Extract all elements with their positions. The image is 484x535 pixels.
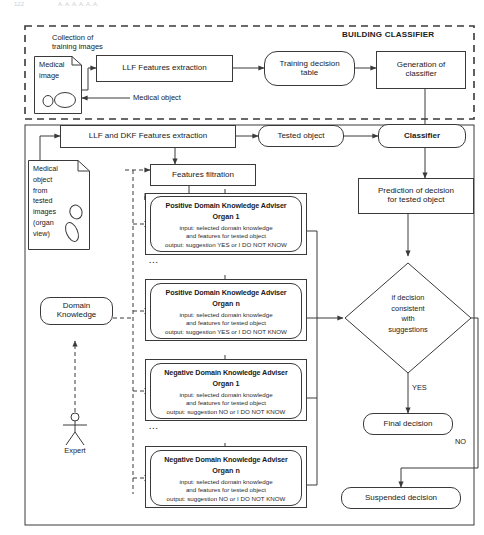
medical-object-callout-label: Medical object [133,93,181,102]
adviser-positive-organ-1: Positive Domain Knowledge Adviser Organ … [150,196,302,252]
llf-features-extraction-node: LLF Features extraction [96,55,233,82]
page-header-left: 122 [14,1,24,7]
page-header-right: A. A. A. A. A. A. [58,1,99,7]
adviser-input-line1: input: selected domain knowledge [179,478,272,485]
expert-actor [57,412,93,450]
training-decision-table-label: Training decision table [279,60,339,78]
features-filtration-label: Features filtration [172,171,234,180]
llf-dkf-features-extraction-node: LLF and DKF Features extraction [60,125,236,148]
expert-stick-figure-icon [57,412,93,446]
adviser-input-line1: input: selected domain knowledge [179,391,272,398]
generation-of-classifier-label: Generation of classifier [397,61,445,79]
classifier-label: Classifier [404,132,440,141]
expert-label: Expert [49,446,101,455]
adviser-organ: Organ 1 [212,212,239,221]
adviser-title: Negative Domain Knowledge Adviser [164,455,287,464]
adviser-negative-organ-n: Negative Domain Knowledge Adviser Organ … [150,450,302,506]
generation-of-classifier-node: Generation of classifier [376,51,466,89]
yes-edge-label: YES [412,383,427,392]
suspended-decision-node: Suspended decision [341,487,461,509]
ellipsis-positive: ... [149,256,159,265]
domain-knowledge-label: Domain Knowledge [57,302,97,320]
adviser-output-line: output: suggestion NO or I DO NOT KNOW [167,408,286,415]
training-decision-table-node: Training decision table [264,51,355,86]
medical-object-large-ellipse [55,93,76,108]
adviser-organ: Organ n [212,466,240,475]
adviser-output-line: output: suggestion YES or I DO NOT KNOW [165,328,287,335]
tested-object-node: Tested object [258,125,344,147]
adviser-output-line: output: suggestion NO or I DO NOT KNOW [167,495,286,502]
medical-object-tested-document: Medical object from tested images (organ… [28,160,90,250]
medical-object-tested-label: Medical object from tested images (organ… [33,164,58,240]
collection-of-training-images-label: Collection of training images [52,33,138,51]
llf-features-extraction-label: LLF Features extraction [122,64,206,73]
final-decision-node: Final decision [363,413,453,435]
suspended-decision-label: Suspended decision [365,494,437,503]
features-filtration-node: Features filtration [150,164,256,186]
ellipsis-negative: ... [149,422,159,431]
adviser-input-line2: and features for tested object [186,399,266,406]
medical-image-label: Medical image [39,60,64,81]
flowchart-page: 122 A. A. A. A. A. A. [0,0,484,535]
adviser-negative-organ-1: Negative Domain Knowledge Adviser Organ … [150,363,302,419]
medical-object-small-ellipse [43,96,53,107]
adviser-input-line1: input: selected domain knowledge [179,311,272,318]
adviser-organ: Organ n [212,299,240,308]
tested-object-label: Tested object [277,132,324,141]
final-decision-label: Final decision [384,420,433,429]
building-classifier-title: BUILDING CLASSIFIER [342,30,434,39]
no-edge-label: NO [455,437,466,446]
adviser-input-line2: and features for tested object [186,319,266,326]
domain-knowledge-node: Domain Knowledge [40,297,113,325]
decision-diamond-label: if decision consistent with suggestions [372,293,444,336]
adviser-input-line2: and features for tested object [186,232,266,239]
adviser-positive-organ-n: Positive Domain Knowledge Adviser Organ … [150,283,302,339]
adviser-input-line2: and features for tested object [186,486,266,493]
prediction-of-decision-label: Prediction of decision for tested object [378,187,454,205]
adviser-title: Negative Domain Knowledge Adviser [164,368,287,377]
llf-dkf-features-extraction-label: LLF and DKF Features extraction [89,132,207,141]
adviser-title: Positive Domain Knowledge Adviser [165,201,286,210]
classifier-node: Classifier [378,124,466,148]
adviser-organ: Organ 1 [212,379,239,388]
adviser-title: Positive Domain Knowledge Adviser [165,288,286,297]
prediction-of-decision-node: Prediction of decision for tested object [358,178,474,214]
adviser-input-line1: input: selected domain knowledge [179,224,272,231]
medical-image-document: Medical image [34,56,82,114]
adviser-output-line: output: suggestion YES or I DO NOT KNOW [165,241,287,248]
